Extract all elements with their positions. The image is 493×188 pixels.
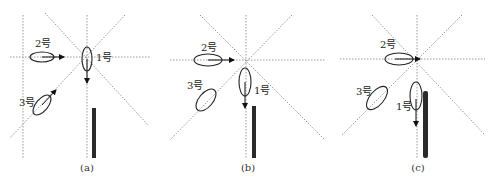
ship-2-label: 2号 — [35, 38, 51, 49]
diagonal-guide — [372, 15, 485, 135]
panel-caption: (b) — [241, 162, 255, 173]
ship-3-label: 3号 — [356, 86, 372, 97]
panel-c: 2号 3号 1号 (c) — [340, 15, 485, 173]
diagonal-guide — [45, 13, 148, 125]
ship-1-label: 1号 — [96, 52, 112, 63]
panel-a: 2号 1号 3号 (a) — [10, 13, 150, 173]
diagonal-guide — [342, 15, 462, 135]
ship-2-label: 2号 — [380, 39, 396, 50]
obstacle-bar — [423, 91, 428, 158]
obstacle-bar — [252, 106, 256, 158]
ship-1-label: 1号 — [396, 101, 412, 112]
ship-2-label: 2号 — [201, 42, 217, 53]
diagonal-guide — [10, 15, 125, 138]
ship-3-label: 3号 — [187, 80, 203, 91]
diagonal-guide — [200, 15, 325, 140]
ship-3-label: 3号 — [19, 97, 35, 108]
panel-b: 2号 1号 3号 (b) — [170, 15, 325, 173]
three-panel-diagram: 2号 1号 3号 (a) 2号 1号 3号 (b) — [0, 0, 493, 188]
diagonal-guide — [170, 15, 292, 140]
panel-caption: (c) — [411, 162, 425, 173]
ship-1-label: 1号 — [254, 85, 270, 96]
obstacle-bar — [92, 108, 96, 158]
panel-caption: (a) — [80, 162, 94, 173]
ship-3-heading-arrow — [42, 90, 56, 105]
